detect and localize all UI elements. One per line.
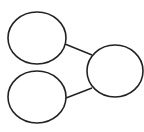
edge-top-left-to-right xyxy=(65,44,92,55)
node-right xyxy=(87,45,143,97)
edge-bottom-left-to-right xyxy=(66,88,92,98)
nodes-layer xyxy=(8,12,143,123)
node-bottom-left xyxy=(8,71,66,123)
diagram-canvas xyxy=(0,0,144,132)
node-top-left xyxy=(8,12,66,64)
